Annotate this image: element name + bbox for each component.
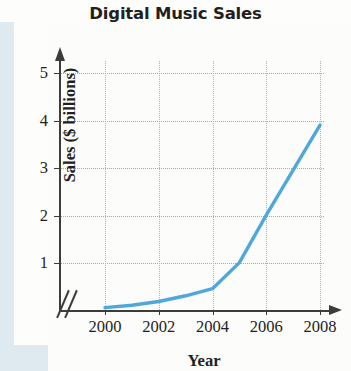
y-tick-label-4: 4 (26, 111, 48, 131)
x-tick-label-2008: 2008 (293, 317, 347, 337)
chart-title: Digital Music Sales (0, 4, 351, 23)
data-series-line (59, 55, 339, 311)
y-tick-label-1: 1 (26, 253, 48, 273)
y-tick-label-5: 5 (26, 63, 48, 83)
x-tick-label-2002: 2002 (132, 317, 186, 337)
y-tick-label-2: 2 (26, 206, 48, 226)
x-tick-label-2006: 2006 (239, 317, 293, 337)
series-polyline (105, 125, 320, 307)
x-axis-title: Year (59, 351, 349, 371)
x-tick-label-2004: 2004 (186, 317, 240, 337)
chart-figure: Digital Music Sales (0, 0, 351, 371)
plot-area: 5 4 3 2 1 2000 2002 2004 2006 2008 Sales… (59, 55, 339, 311)
x-tick-label-2000: 2000 (78, 317, 132, 337)
y-tick-label-3: 3 (26, 158, 48, 178)
